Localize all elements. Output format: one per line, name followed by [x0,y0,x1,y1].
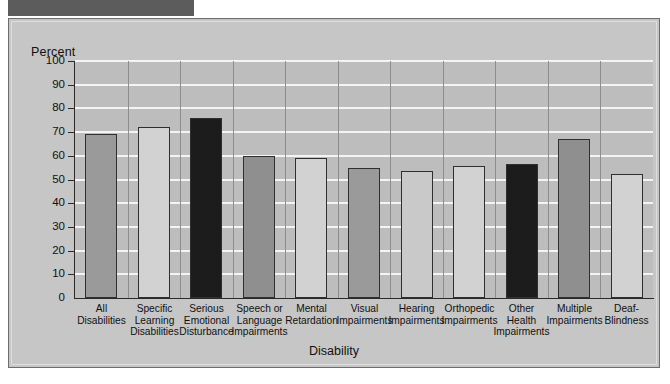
category-label-line: Mental [296,303,327,314]
bar-all-disabilities [85,134,117,298]
category-label-mental-retardation: MentalRetardation [281,303,342,326]
bar-specific-learning-disabilities [138,127,170,298]
category-label-line: Disabilities [77,315,126,326]
category-label-line: Visual [351,303,379,314]
y-tick-label-90: 90 [31,78,65,90]
category-label-line: Impairments [493,326,549,337]
category-label-line: Serious [189,303,224,314]
figure-panel: Percent 0102030405060708090100 AllDisabi… [8,18,660,368]
y-tick-label-70: 70 [31,125,65,137]
category-label-line: Other [509,303,534,314]
plot-area [75,61,653,298]
header-block [8,0,194,16]
y-tick-10 [68,274,74,275]
category-separator [548,61,549,298]
category-label-line: Deaf- [614,303,639,314]
category-separator [285,61,286,298]
category-separator [128,61,129,298]
gridline-100 [75,60,653,62]
gridline-90 [75,84,653,86]
y-tick-label-10: 10 [31,267,65,279]
category-label-line: Multiple [557,303,592,314]
category-separator [233,61,234,298]
y-tick-100 [68,61,74,62]
category-label-line: Emotional [184,315,229,326]
y-tick-label-0: 0 [31,291,65,303]
y-tick-label-40: 40 [31,196,65,208]
category-separator [600,61,601,298]
bar-hearing-impairments [401,171,433,298]
bar-orthopedic-impairments [453,166,485,298]
y-tick-label-60: 60 [31,149,65,161]
category-label-line: Learning [135,315,175,326]
y-tick-40 [68,203,74,204]
category-label-line: Blindness [604,315,648,326]
y-tick-label-100: 100 [31,54,65,66]
y-tick-60 [68,156,74,157]
y-tick-70 [68,132,74,133]
category-label-all-disabilities: AllDisabilities [71,303,132,326]
category-label-line: Disabilities [130,326,179,337]
category-label-line: Impairments [388,315,444,326]
category-separator [180,61,181,298]
category-separator [443,61,444,298]
y-axis-tick-labels: 0102030405060708090100 [25,19,65,367]
category-label-line: Impairments [546,315,602,326]
y-tick-50 [68,180,74,181]
y-tick-label-30: 30 [31,220,65,232]
category-label-serious-emotional-disturbance: SeriousEmotionalDisturbance [176,303,237,338]
bar-visual-impairments [348,168,380,298]
bar-other-health-impairments [506,164,538,298]
category-label-line: Hearing [399,303,435,314]
category-separator [390,61,391,298]
category-label-line: Impairments [231,326,287,337]
category-label-line: Health [507,315,536,326]
category-label-line: All [96,303,107,314]
category-separator [495,61,496,298]
category-separator [338,61,339,298]
y-tick-label-20: 20 [31,244,65,256]
category-label-line: Speech or [236,303,282,314]
bar-speech-or-language-impairments [243,156,275,298]
y-tick-90 [68,85,74,86]
category-label-line: Language [237,315,282,326]
y-tick-20 [68,251,74,252]
category-label-other-health-impairments: OtherHealthImpairments [491,303,552,338]
category-label-deaf-blindness: Deaf-Blindness [596,303,657,326]
category-label-hearing-impairments: HearingImpairments [386,303,447,326]
category-label-line: Orthopedic [445,303,495,314]
y-tick-30 [68,227,74,228]
gridline-80 [75,107,653,109]
category-label-line: Impairments [441,315,497,326]
y-axis-line [74,61,75,299]
bar-mental-retardation [295,158,327,298]
category-label-line: Retardation [285,315,338,326]
bar-multiple-impairments [558,139,590,298]
x-axis-line [74,298,654,299]
x-axis-title: Disability [9,344,659,358]
y-tick-label-50: 50 [31,173,65,185]
bar-deaf-blindness [611,174,643,298]
bar-serious-emotional-disturbance [190,118,222,298]
y-tick-label-80: 80 [31,101,65,113]
y-tick-80 [68,108,74,109]
category-label-line: Specific [137,303,173,314]
category-label-line: Impairments [336,315,392,326]
category-label-line: Disturbance [179,326,233,337]
